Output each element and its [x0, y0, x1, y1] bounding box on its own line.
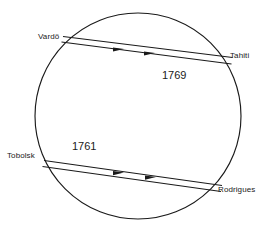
label-rodrigues: Rodrigues	[218, 186, 255, 194]
transit-1761-chord-lower	[43, 167, 222, 192]
transit-path-1761	[43, 161, 223, 192]
label-year-1769: 1769	[162, 70, 186, 81]
transit-of-venus-diagram: Vardö Tahiti Tobolsk Rodrigues 1769 1761	[0, 0, 273, 231]
solar-disk	[35, 13, 241, 219]
label-tobolsk: Tobolsk	[7, 152, 35, 160]
label-tahiti: Tahiti	[230, 52, 249, 60]
label-year-1761: 1761	[72, 141, 96, 152]
transit-1761-chord-upper	[44, 161, 222, 186]
transit-path-1769	[62, 37, 233, 65]
label-vardo: Vardö	[38, 33, 59, 41]
